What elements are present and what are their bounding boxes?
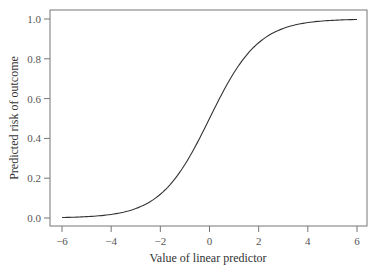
x-tick-label: −2 <box>154 235 166 247</box>
sigmoid-curve <box>62 19 357 217</box>
plot-frame <box>50 10 367 226</box>
x-tick-label: −4 <box>105 235 117 247</box>
x-tick-label: −6 <box>56 235 68 247</box>
y-axis-label: Predicted risk of outcome <box>7 56 21 180</box>
x-tick-label: 4 <box>305 235 311 247</box>
x-tick-label: 2 <box>256 235 262 247</box>
y-tick-label: 0.6 <box>27 93 41 105</box>
y-tick-label: 0.0 <box>27 212 41 224</box>
x-axis-label: Value of linear predictor <box>150 251 267 265</box>
logistic-curve-chart: 0.00.20.40.60.81.0 −6−4−20246 Value of l… <box>0 0 377 274</box>
x-tick-label: 0 <box>207 235 213 247</box>
x-tick-label: 6 <box>354 235 360 247</box>
y-axis: 0.00.20.40.60.81.0 <box>27 13 50 224</box>
x-axis: −6−4−20246 <box>56 226 360 247</box>
y-tick-label: 0.2 <box>27 172 41 184</box>
y-tick-label: 0.8 <box>27 53 41 65</box>
y-tick-label: 0.4 <box>27 132 41 144</box>
y-tick-label: 1.0 <box>27 13 41 25</box>
